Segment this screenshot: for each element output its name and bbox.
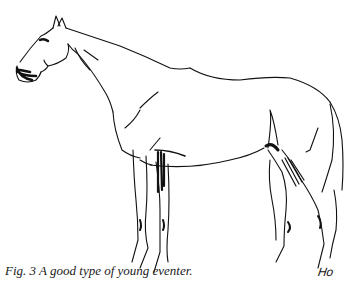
horse-drawing	[0, 0, 361, 288]
figure: Fig. 3 A good type of young eventer. Ho	[0, 0, 361, 288]
artist-signature: Ho	[317, 265, 334, 279]
figure-caption: Fig. 3 A good type of young eventer.	[5, 263, 193, 279]
